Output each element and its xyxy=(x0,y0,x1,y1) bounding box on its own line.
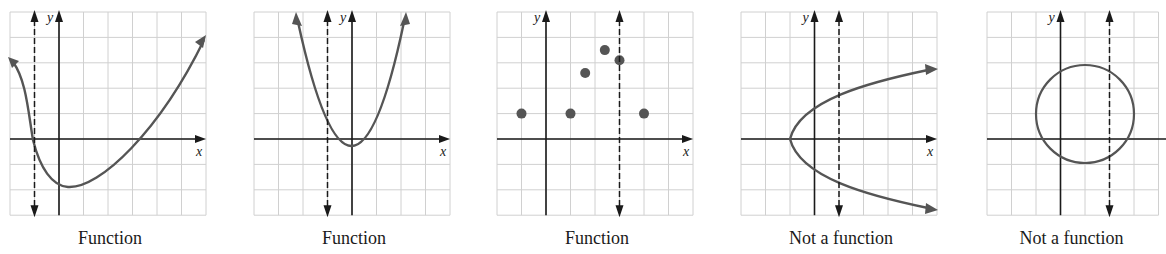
grid xyxy=(987,12,1159,215)
y-axis-label: y xyxy=(1047,10,1056,25)
panel-5-not-a-function: y Not a function xyxy=(977,0,1166,254)
axes: y xyxy=(987,10,1166,215)
graph-5: y xyxy=(0,0,1166,225)
panel-caption: Not a function xyxy=(731,228,951,249)
panel-caption: Function xyxy=(0,228,220,249)
panel-caption: Not a function xyxy=(977,228,1166,249)
panel-caption: Function xyxy=(487,228,707,249)
panel-caption: Function xyxy=(244,228,464,249)
